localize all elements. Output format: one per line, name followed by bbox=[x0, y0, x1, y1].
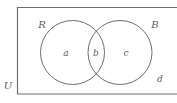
venn-diagram-page: R B a b c d U bbox=[0, 0, 177, 103]
venn-diagram-canvas: R B a b c d U bbox=[0, 0, 177, 103]
set-label-left: R bbox=[37, 19, 46, 30]
region-label-left-only: a bbox=[63, 48, 68, 58]
universe-label: U bbox=[4, 80, 13, 91]
region-label-outside: d bbox=[157, 74, 163, 84]
set-label-right: B bbox=[150, 19, 158, 30]
region-label-intersection: b bbox=[93, 48, 99, 58]
region-label-right-only: c bbox=[123, 48, 128, 58]
